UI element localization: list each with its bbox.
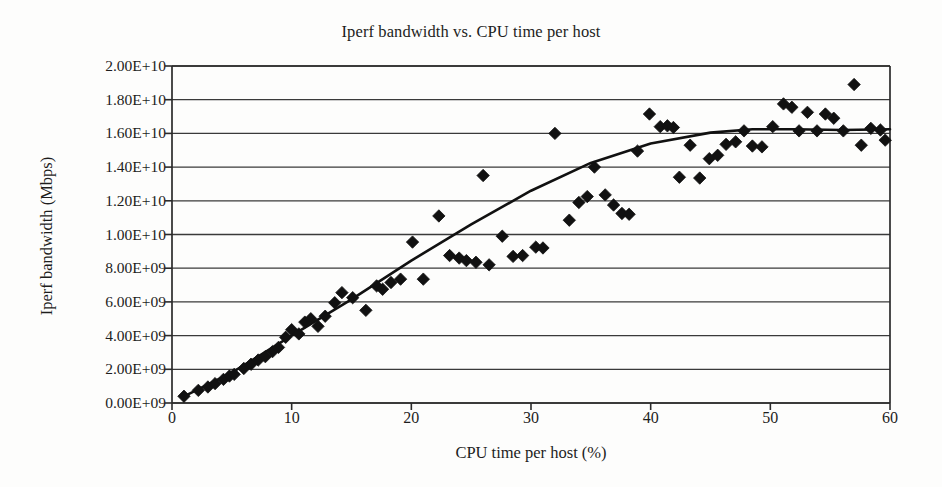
data-point-marker [599,189,611,201]
data-point-marker [443,249,455,261]
data-point-marker [563,214,575,226]
data-point-marker [756,141,768,153]
data-point-marker [516,249,528,261]
data-point-marker [549,127,561,139]
data-point-marker [855,139,867,151]
data-point-marker [336,286,348,298]
x-axis-ticks [172,403,890,410]
data-point-marker [178,390,190,402]
y-axis-ticks [165,66,172,403]
data-point-marker [801,106,813,118]
data-point-marker [433,210,445,222]
data-point-marker [483,259,495,271]
data-point-marker [417,273,429,285]
data-point-marker [865,122,877,134]
data-point-markers [178,78,892,402]
data-point-marker [793,125,805,137]
data-point-marker [477,169,489,181]
data-point-marker [673,171,685,183]
plot-svg [0,0,942,487]
data-point-marker [837,125,849,137]
trend-polyline [184,129,890,396]
data-point-marker [694,172,706,184]
data-point-marker [738,125,750,137]
data-point-marker [767,120,779,132]
data-point-marker [729,136,741,148]
plot-area [0,0,942,487]
data-point-marker [684,139,696,151]
data-point-marker [848,78,860,90]
data-point-marker [720,138,732,150]
data-point-marker [406,236,418,248]
data-point-marker [643,108,655,120]
data-point-marker [811,125,823,137]
trend-line [184,129,890,396]
data-point-marker [360,304,372,316]
chart-figure: Iperf bandwidth vs. CPU time per host Ip… [0,0,942,487]
data-point-marker [470,256,482,268]
data-point-marker [496,230,508,242]
